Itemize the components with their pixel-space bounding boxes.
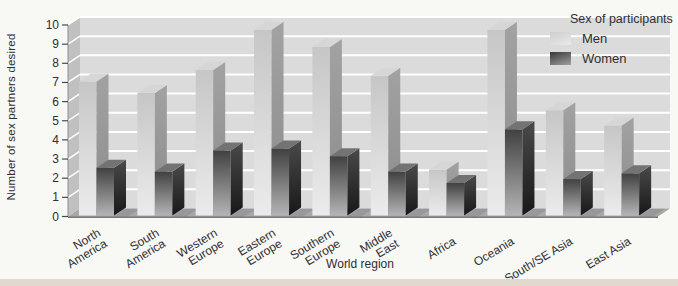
legend-row-women: Women	[550, 51, 678, 66]
bar-women-north-america-front	[97, 168, 115, 216]
bar-women-south-se-asia-front	[563, 179, 581, 215]
figure-3d-bar-chart: 012345678910NorthAmericaSouthAmericaWest…	[0, 0, 678, 286]
y-tick-label: 5	[52, 114, 59, 128]
y-tick-label: 0	[52, 210, 59, 224]
page-edge-strip	[0, 279, 678, 286]
bar-men-south-america-front	[137, 93, 155, 216]
bar-women-western-europe-side	[231, 142, 243, 215]
y-axis-title: Number of sex partners desired	[5, 17, 19, 217]
bar-men-oceania-front	[487, 30, 505, 216]
men-swatch-icon	[550, 32, 571, 45]
women-swatch-icon	[550, 52, 571, 65]
legend-title: Sex of participants	[570, 12, 678, 26]
x-category-label: SouthAmerica	[116, 225, 168, 271]
bar-women-north-america-side	[114, 160, 126, 216]
y-tick-label: 1	[52, 190, 59, 204]
y-tick-label: 2	[52, 171, 59, 185]
bar-men-north-america-front	[79, 81, 97, 215]
bar-men-southern-europe-front	[312, 47, 330, 216]
bar-women-middle-east-side	[406, 163, 418, 215]
y-tick-label: 7	[52, 75, 59, 89]
legend-label-women: Women	[582, 51, 627, 66]
legend-label-men: Men	[582, 31, 607, 46]
bar-women-southern-europe-side	[347, 148, 359, 215]
bar-women-east-asia-front	[622, 173, 640, 215]
y-tick-label: 3	[52, 152, 59, 166]
bar-men-east-asia-front	[604, 125, 622, 215]
bar-men-western-europe-front	[196, 70, 214, 216]
x-category-label: EasternEurope	[235, 225, 284, 269]
bar-men-south-se-asia-front	[546, 110, 564, 215]
bar-women-africa-front	[447, 183, 465, 216]
bar-women-middle-east-front	[388, 171, 406, 215]
bar-men-africa-front	[429, 170, 447, 216]
y-tick-label: 6	[52, 95, 59, 109]
bar-women-oceania-front	[505, 129, 523, 215]
bar-women-east-asia-side	[639, 165, 651, 215]
x-axis-title: World region	[300, 257, 420, 271]
x-category-label: WesternEurope	[174, 225, 226, 271]
legend: Sex of participants Men Women	[550, 12, 678, 66]
bar-women-eastern-europe-side	[289, 140, 301, 215]
x-category-label: East Asia	[583, 234, 633, 272]
bar-women-southern-europe-front	[330, 156, 348, 215]
bar-women-south-america-front	[155, 171, 173, 215]
bar-women-western-europe-front	[213, 150, 231, 215]
y-tick-label: 9	[52, 37, 59, 51]
bar-women-south-america-side	[172, 163, 184, 215]
x-category-label: Oceania	[471, 234, 517, 269]
x-category-label: Africa	[425, 234, 459, 262]
y-tick-label: 8	[52, 56, 59, 70]
legend-row-men: Men	[550, 31, 678, 46]
bar-women-eastern-europe-front	[272, 148, 290, 215]
bar-men-eastern-europe-front	[254, 30, 271, 216]
bar-women-oceania-side	[522, 121, 534, 215]
y-tick-label: 4	[52, 133, 59, 147]
bar-men-middle-east-front	[371, 76, 389, 216]
x-category-label: NorthAmerica	[58, 225, 110, 271]
y-tick-label: 10	[46, 18, 60, 32]
